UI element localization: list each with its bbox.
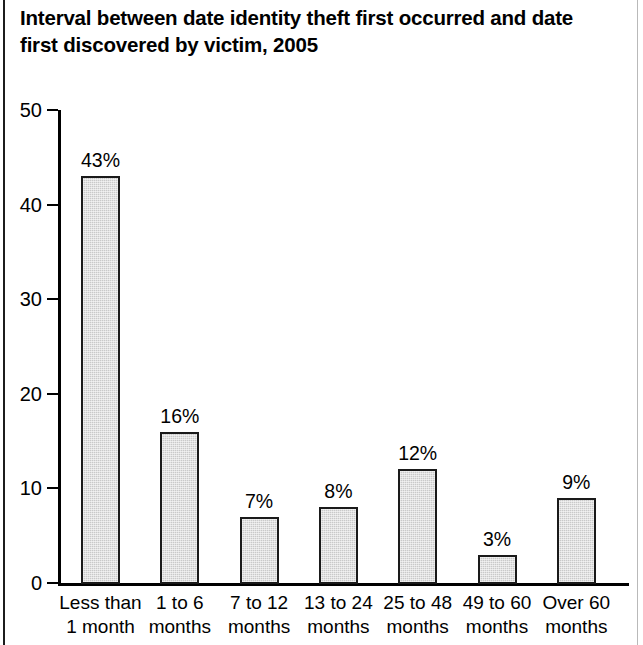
bar-value-label: 8% [298,481,378,501]
bar-value-label: 12% [378,443,458,463]
bar-value-label: 43% [61,150,141,170]
bar-value-label: 3% [457,529,537,549]
bar[interactable] [160,432,199,584]
bar-value-label: 7% [219,491,299,511]
bar[interactable] [81,176,120,584]
y-axis-tick-label: 0 [0,573,42,593]
x-axis-category-label-line: months [526,615,626,639]
x-axis-category-label-line: Over 60 [526,591,626,615]
plot-area: 0102030405043%Less than1 month16%1 to 6m… [0,0,643,645]
bar-value-label: 16% [140,406,220,426]
y-axis-tick [47,109,58,111]
y-axis-tick-label: 30 [0,289,42,309]
bar[interactable] [319,507,358,584]
bar-value-label: 9% [536,472,616,492]
bar[interactable] [557,498,596,584]
y-axis-tick [47,204,58,206]
y-axis-tick [47,393,58,395]
y-axis-tick [47,487,58,489]
bar[interactable] [398,469,437,584]
y-axis-tick [47,582,58,584]
bar[interactable] [240,517,279,584]
x-axis-category-label: Over 60months [526,591,626,639]
y-axis-tick-label: 50 [0,100,42,120]
chart-page: Interval between date identity theft fir… [0,0,643,645]
y-axis-tick-label: 10 [0,478,42,498]
y-axis-tick-label: 40 [0,195,42,215]
y-axis-tick-label: 20 [0,384,42,404]
y-axis-line [58,110,61,586]
y-axis-tick [47,298,58,300]
bar[interactable] [478,555,517,584]
